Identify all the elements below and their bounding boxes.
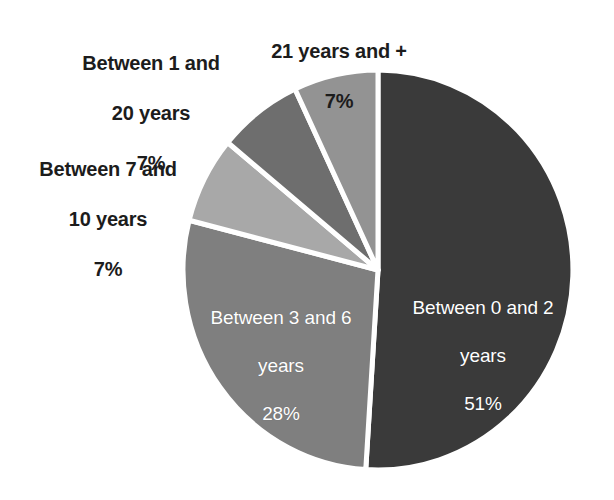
slice-label-0-2-line2: years [388, 344, 578, 368]
slice-label-3-6-value: 28% [186, 402, 376, 426]
slice-label-7-10-value: 7% [16, 257, 200, 282]
slice-label-7-10: Between 7 and 10 years 7% [16, 132, 200, 307]
slice-label-0-2-line1: Between 0 and 2 [388, 296, 578, 320]
slice-label-21-plus: 21 years and + 7% [244, 14, 434, 139]
slice-label-0-2: Between 0 and 2 years 51% [388, 272, 578, 440]
slice-label-3-6: Between 3 and 6 years 28% [186, 282, 376, 450]
slice-label-7-10-line2: 10 years [16, 207, 200, 232]
slice-label-7-10-line1: Between 7 and [16, 157, 200, 182]
pie-chart: 21 years and + 7% Between 1 and 20 years… [0, 0, 614, 500]
slice-label-3-6-line1: Between 3 and 6 [186, 306, 376, 330]
slice-label-0-2-value: 51% [388, 392, 578, 416]
slice-label-21-plus-value: 7% [244, 89, 434, 114]
slice-label-1-20-line1: Between 1 and [56, 51, 246, 76]
slice-label-1-20-line2: 20 years [56, 101, 246, 126]
slice-label-21-plus-line1: 21 years and + [244, 39, 434, 64]
slice-label-3-6-line2: years [186, 354, 376, 378]
